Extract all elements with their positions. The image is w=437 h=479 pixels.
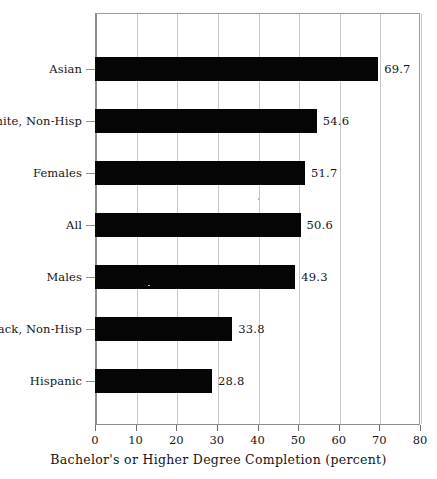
bar-hispanic [95, 369, 212, 393]
category-tick [86, 381, 95, 382]
bar-row: 50.6 [95, 213, 420, 237]
scan-artifact [258, 198, 260, 200]
bar-all [95, 213, 301, 237]
category-axis: AsianWhite, Non-HispFemalesAllMalesBlack… [0, 13, 95, 425]
bar-row: 28.8 [95, 369, 420, 393]
x-tick-0 [95, 425, 96, 431]
bar-value-label: 54.6 [323, 114, 349, 128]
category-label-all: All [66, 213, 82, 237]
bar-value-label: 50.6 [307, 218, 333, 232]
x-tick-40 [258, 425, 259, 431]
x-axis-title: Bachelor's or Higher Degree Completion (… [0, 452, 437, 467]
bar-row: 33.8 [95, 317, 420, 341]
category-label-males: Males [46, 265, 82, 289]
bars-layer: 69.754.651.750.649.333.828.8 [95, 13, 420, 425]
x-tick-80 [420, 425, 421, 431]
scan-artifact [148, 285, 150, 286]
category-tick [86, 173, 95, 174]
category-tick [86, 329, 95, 330]
bar-asian [95, 57, 378, 81]
x-tick-label-60: 60 [331, 433, 346, 447]
x-tick-20 [176, 425, 177, 431]
x-tick-60 [339, 425, 340, 431]
x-tick-label-30: 30 [210, 433, 225, 447]
x-tick-label-80: 80 [413, 433, 428, 447]
category-label-white-non-hisp: White, Non-Hisp [0, 109, 82, 133]
x-tick-label-50: 50 [291, 433, 306, 447]
bar-males [95, 265, 295, 289]
category-tick [86, 121, 95, 122]
x-tick-30 [217, 425, 218, 431]
bar-row: 69.7 [95, 57, 420, 81]
category-label-black-non-hisp: Black, Non-Hisp [0, 317, 82, 341]
x-tick-label-40: 40 [250, 433, 265, 447]
bar-value-label: 33.8 [238, 322, 264, 336]
category-label-asian: Asian [49, 57, 82, 81]
category-label-females: Females [33, 161, 82, 185]
bar-row: 54.6 [95, 109, 420, 133]
category-label-hispanic: Hispanic [30, 369, 82, 393]
bar-white-non-hisp [95, 109, 317, 133]
bar-value-label: 51.7 [311, 166, 337, 180]
x-tick-label-0: 0 [91, 433, 98, 447]
bar-value-label: 49.3 [301, 270, 327, 284]
x-tick-label-20: 20 [169, 433, 184, 447]
bar-row: 51.7 [95, 161, 420, 185]
bar-row: 49.3 [95, 265, 420, 289]
x-tick-70 [379, 425, 380, 431]
bar-value-label: 28.8 [218, 374, 244, 388]
category-tick [86, 69, 95, 70]
bar-black-non-hisp [95, 317, 232, 341]
x-tick-10 [136, 425, 137, 431]
x-axis-tick-labels: 01020304050607080 [0, 433, 437, 449]
category-tick [86, 225, 95, 226]
bar-value-label: 69.7 [384, 62, 410, 76]
bar-chart: 69.754.651.750.649.333.828.8 AsianWhite,… [0, 0, 437, 479]
x-axis-ticks [95, 425, 420, 431]
x-tick-label-10: 10 [128, 433, 143, 447]
gridline-80 [421, 14, 422, 424]
bar-females [95, 161, 305, 185]
x-tick-50 [298, 425, 299, 431]
x-tick-label-70: 70 [372, 433, 387, 447]
category-tick [86, 277, 95, 278]
